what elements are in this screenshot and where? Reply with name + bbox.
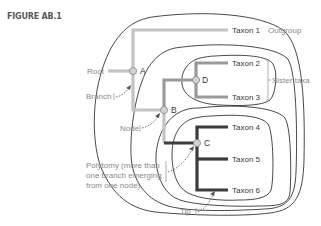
taxon-label: Taxon 1 — [232, 26, 261, 35]
branch-a-taxon1 — [133, 30, 228, 71]
polytomy-annotation-line3: from one node) — [86, 181, 141, 190]
branch-annotation: Branch — [86, 92, 111, 101]
node-pointer-arrow — [142, 116, 158, 128]
branch-d-taxa — [196, 63, 228, 97]
node-c-marker — [193, 139, 200, 146]
node-c-label: C — [204, 138, 210, 148]
polytomy-arrowhead — [189, 146, 194, 151]
tip-arrowhead — [210, 191, 215, 196]
branch-arrowhead — [126, 85, 131, 90]
node-d-marker — [192, 76, 199, 83]
outgroup-annotation: Outgroup — [268, 26, 302, 35]
branch-b-d — [164, 80, 196, 110]
node-arrowhead — [155, 113, 160, 118]
taxon-label: Taxon 6 — [232, 186, 261, 195]
node-a-label: A — [140, 66, 146, 76]
node-b-marker — [160, 106, 167, 113]
branch-pointer-arrow — [116, 88, 129, 97]
sister-taxa-annotation: Sister taxa — [272, 76, 310, 85]
tip-annotation: Tip — [180, 207, 191, 216]
polytomy-annotation-line1: Polytomy (more than — [86, 161, 160, 170]
node-a-marker — [129, 67, 136, 74]
taxon-label: Taxon 5 — [232, 155, 261, 164]
root-annotation: Root — [87, 67, 105, 76]
branch-a-b — [133, 71, 164, 110]
node-d-label: D — [202, 75, 208, 85]
node-annotation: Node — [120, 124, 140, 133]
cladogram-diagram: A B C D Taxon 1 Taxon 2 Taxon 3 Taxon 4 … — [0, 0, 321, 226]
taxon-label: Taxon 2 — [232, 59, 261, 68]
taxon-label: Taxon 3 — [232, 93, 261, 102]
node-b-label: B — [171, 105, 177, 115]
sister-taxa-bracket — [266, 60, 271, 100]
taxon-label: Taxon 4 — [232, 123, 261, 132]
tip-pointer-arrow — [198, 194, 213, 212]
polytomy-annotation-line2: one branch emerging — [86, 171, 162, 180]
polytomy-pointer-arrow — [168, 149, 192, 172]
